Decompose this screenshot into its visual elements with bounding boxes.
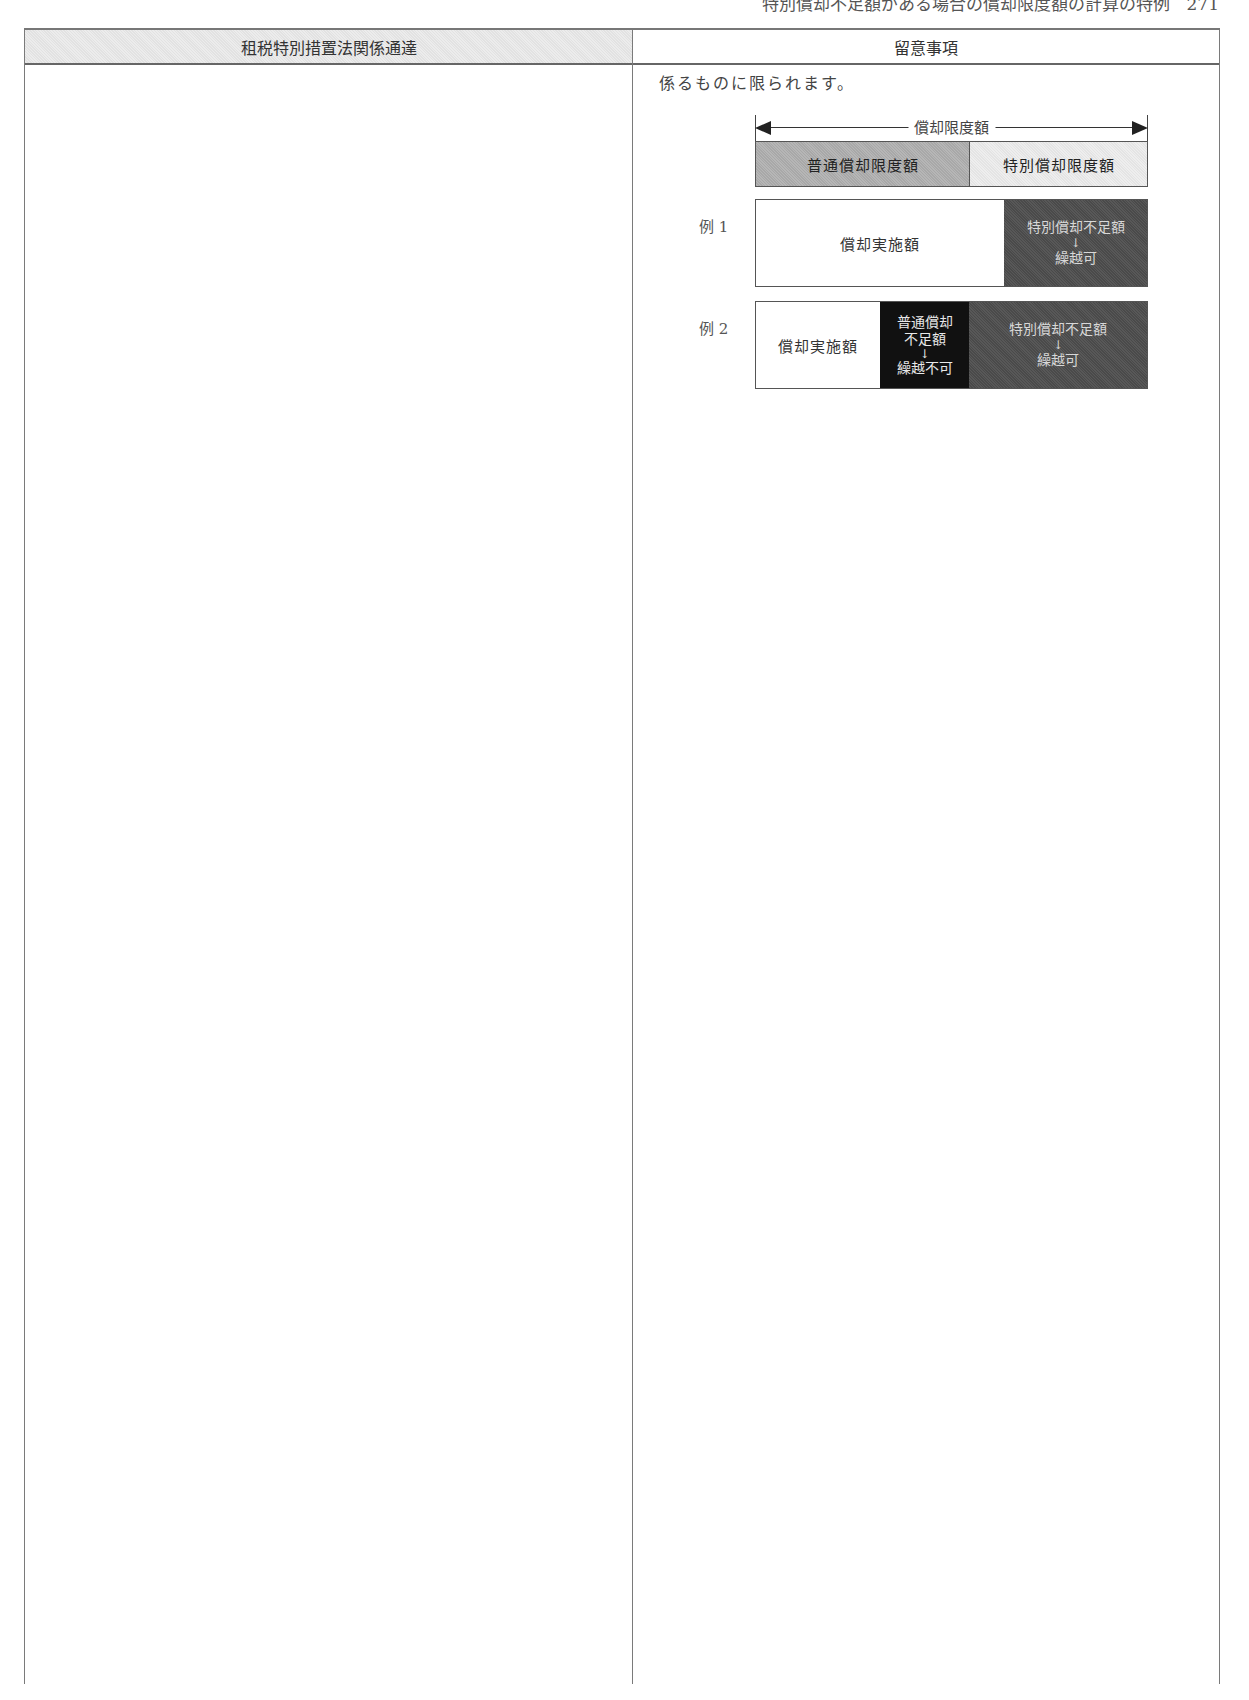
comparison-table: 租税特別措置法関係通達 留意事項 係るものに限られます。 償却限度額 普通償却限… [24,28,1220,1684]
actual-depreciation-segment: 償却実施額 [756,302,880,388]
arrow-down-icon: ↓ [919,348,929,360]
circular-column-cell [25,65,632,1684]
special-shortfall-label: 特別償却不足額 [1027,218,1125,237]
arrow-right-icon [1132,121,1148,135]
depreciation-limit-range: 償却限度額 [755,115,1148,141]
example-2-label: 例 2 [699,317,728,338]
notes-column-cell: 係るものに限られます。 償却限度額 普通償却限度額 特別償却限度額 例 1 償却… [633,65,1219,1684]
normal-shortfall-segment: 普通償却 不足額 ↓ 繰越不可 [880,302,969,388]
column-header-notes: 留意事項 [633,30,1219,63]
normal-depreciation-limit: 普通償却限度額 [756,142,970,186]
table-header: 租税特別措置法関係通達 留意事項 [25,30,1219,65]
column-header-circular: 租税特別措置法関係通達 [25,30,632,63]
running-header: 特別償却不足額がある場合の償却限度額の計算の特例 271 [762,0,1219,15]
arrow-down-icon: ↓ [1053,339,1063,351]
carryforward-allowed-label: 繰越可 [1055,249,1097,268]
special-shortfall-label: 特別償却不足額 [1009,320,1107,339]
special-depreciation-limit: 特別償却限度額 [970,142,1147,186]
example-1-bar: 償却実施額 特別償却不足額 ↓ 繰越可 [755,199,1148,287]
carryforward-not-allowed-label: 繰越不可 [897,360,953,377]
range-label: 償却限度額 [908,116,995,137]
limit-breakdown-bar: 普通償却限度額 特別償却限度額 [755,141,1148,187]
depreciation-limit-diagram: 償却限度額 普通償却限度額 特別償却限度額 例 1 償却実施額 特別償却不足額 … [633,65,1219,465]
example-1-label: 例 1 [699,215,728,236]
normal-shortfall-label-2: 不足額 [904,331,946,348]
actual-depreciation-segment: 償却実施額 [756,200,1004,286]
arrow-left-icon [755,121,771,135]
example-2-bar: 償却実施額 普通償却 不足額 ↓ 繰越不可 特別償却不足額 ↓ 繰越可 [755,301,1148,389]
special-shortfall-segment: 特別償却不足額 ↓ 繰越可 [969,302,1147,388]
carryforward-allowed-label: 繰越可 [1037,351,1079,370]
arrow-down-icon: ↓ [1070,237,1080,249]
normal-shortfall-label-1: 普通償却 [897,314,953,331]
special-shortfall-segment: 特別償却不足額 ↓ 繰越可 [1004,200,1147,286]
